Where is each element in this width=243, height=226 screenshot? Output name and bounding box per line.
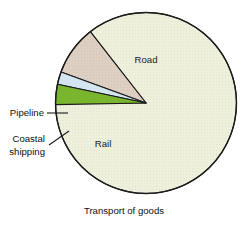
chart-caption: Transport of goods — [84, 205, 164, 216]
pie-label-rail: Rail — [95, 138, 112, 149]
transport-of-goods-pie-chart: Road Rail Pipeline Coastal shipping Tran… — [0, 0, 243, 226]
pie-label-pipeline: Pipeline — [10, 107, 44, 118]
pie-label-coastal-shipping-line2: shipping — [9, 146, 45, 157]
pie-chart-figure: Road Rail Pipeline Coastal shipping Tran… — [0, 0, 243, 226]
pie-label-coastal-shipping-line1: Coastal — [12, 133, 45, 144]
pie-label-road: Road — [135, 54, 158, 65]
